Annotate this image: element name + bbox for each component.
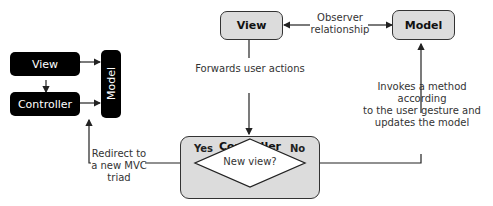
decision-diamond [0, 0, 493, 206]
decision-label: New view? [210, 156, 290, 167]
